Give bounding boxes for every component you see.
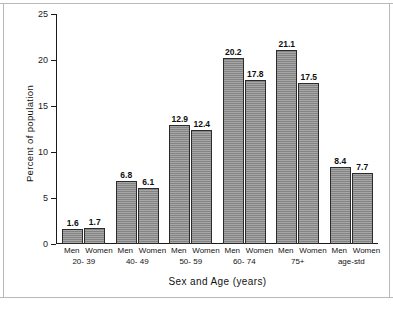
bar-group: 8.47.7 bbox=[325, 14, 379, 244]
bar-column: 17.8 bbox=[245, 14, 266, 244]
bar-value-label: 6.8 bbox=[120, 171, 132, 180]
x-axis-title: Sex and Age (years) bbox=[57, 276, 378, 287]
x-axis-sex-label: Women bbox=[246, 246, 267, 256]
x-axis-sex-label: Women bbox=[139, 246, 160, 256]
bar-column: 21.1 bbox=[276, 14, 297, 244]
bar-value-label: 20.2 bbox=[225, 48, 242, 57]
bar-column: 1.7 bbox=[84, 14, 105, 244]
bar-value-label: 6.1 bbox=[142, 178, 154, 187]
y-axis-title: Percent of population bbox=[24, 54, 35, 214]
bar-column: 6.8 bbox=[116, 14, 137, 244]
x-axis-sex-labels: MenWomen bbox=[115, 246, 160, 256]
bar-group: 1.61.7 bbox=[57, 14, 111, 244]
x-axis-age-label: 40- 49 bbox=[126, 256, 149, 267]
y-axis-tick-mark bbox=[51, 244, 56, 245]
bar-column: 7.7 bbox=[352, 14, 373, 244]
bar-value-label: 7.7 bbox=[356, 163, 368, 172]
y-axis-tick-mark bbox=[51, 60, 56, 61]
bar-value-label: 17.5 bbox=[300, 73, 317, 82]
x-axis-sex-label: Women bbox=[192, 246, 213, 256]
bar[interactable] bbox=[245, 80, 266, 244]
bar-group: 6.86.1 bbox=[111, 14, 165, 244]
y-axis-tick-mark bbox=[51, 152, 56, 153]
bar-value-label: 1.6 bbox=[67, 219, 79, 228]
x-axis-sex-label: Women bbox=[85, 246, 106, 256]
bar-column: 1.6 bbox=[62, 14, 83, 244]
x-axis-sex-label: Men bbox=[222, 246, 243, 256]
y-axis-tick-mark bbox=[51, 14, 56, 15]
x-axis-sex-label: Men bbox=[275, 246, 296, 256]
x-axis-labels: MenWomen20- 39MenWomen40- 49MenWomen50- … bbox=[57, 246, 378, 272]
bar[interactable] bbox=[352, 173, 373, 244]
x-axis-sex-label: Men bbox=[329, 246, 350, 256]
bar-group: 20.217.8 bbox=[218, 14, 272, 244]
x-axis-sex-label: Women bbox=[299, 246, 320, 256]
bar-chart: 0510152025 Percent of population 1.61.76… bbox=[0, 0, 393, 310]
x-axis-sex-labels: MenWomen bbox=[168, 246, 213, 256]
x-axis-group-label: MenWomen40- 49 bbox=[111, 246, 165, 272]
bar-column: 20.2 bbox=[223, 14, 244, 244]
x-axis-group-label: MenWomen50- 59 bbox=[164, 246, 218, 272]
bar-value-label: 12.9 bbox=[171, 115, 188, 124]
bar-column: 6.1 bbox=[138, 14, 159, 244]
bar[interactable] bbox=[223, 58, 244, 244]
x-axis-sex-label: Men bbox=[168, 246, 189, 256]
bar-group: 21.117.5 bbox=[271, 14, 325, 244]
x-axis-age-label: 20- 39 bbox=[72, 256, 95, 267]
bar[interactable] bbox=[330, 167, 351, 244]
bar[interactable] bbox=[62, 229, 83, 244]
bar-value-label: 21.1 bbox=[278, 40, 295, 49]
bar-column: 12.9 bbox=[169, 14, 190, 244]
bar[interactable] bbox=[84, 228, 105, 244]
x-axis-group-label: MenWomen75+ bbox=[271, 246, 325, 272]
y-axis-tick-label: 25 bbox=[8, 10, 48, 19]
bar-value-label: 17.8 bbox=[247, 70, 264, 79]
bar[interactable] bbox=[169, 125, 190, 244]
y-axis-tick-mark bbox=[51, 198, 56, 199]
x-axis-age-label: age-std bbox=[338, 256, 365, 267]
bar[interactable] bbox=[138, 188, 159, 244]
x-axis-group-label: MenWomen20- 39 bbox=[57, 246, 111, 272]
bar-column: 12.4 bbox=[191, 14, 212, 244]
bar[interactable] bbox=[276, 50, 297, 244]
bar[interactable] bbox=[298, 83, 319, 244]
bar[interactable] bbox=[191, 130, 212, 244]
x-axis-group-label: MenWomen60- 74 bbox=[218, 246, 272, 272]
x-axis-group-label: MenWomenage-std bbox=[325, 246, 379, 272]
y-axis-tick-label: 0 bbox=[8, 240, 48, 249]
bar-group: 12.912.4 bbox=[164, 14, 218, 244]
bar-value-label: 8.4 bbox=[334, 157, 346, 166]
bar-column: 8.4 bbox=[330, 14, 351, 244]
x-axis-age-label: 60- 74 bbox=[233, 256, 256, 267]
x-axis-age-label: 75+ bbox=[291, 256, 305, 267]
y-axis-tick-mark bbox=[51, 106, 56, 107]
bar[interactable] bbox=[116, 181, 137, 244]
bar-column: 17.5 bbox=[298, 14, 319, 244]
x-axis-sex-labels: MenWomen bbox=[222, 246, 267, 256]
bar-groups: 1.61.76.86.112.912.420.217.821.117.58.47… bbox=[57, 14, 378, 244]
bar-value-label: 1.7 bbox=[89, 218, 101, 227]
x-axis-sex-label: Men bbox=[115, 246, 136, 256]
x-axis-sex-label: Women bbox=[353, 246, 374, 256]
x-axis-sex-labels: MenWomen bbox=[329, 246, 374, 256]
x-axis-sex-labels: MenWomen bbox=[61, 246, 106, 256]
x-axis-sex-labels: MenWomen bbox=[275, 246, 320, 256]
x-axis-age-label: 50- 59 bbox=[179, 256, 202, 267]
x-axis-sex-label: Men bbox=[61, 246, 82, 256]
bar-value-label: 12.4 bbox=[193, 120, 210, 129]
